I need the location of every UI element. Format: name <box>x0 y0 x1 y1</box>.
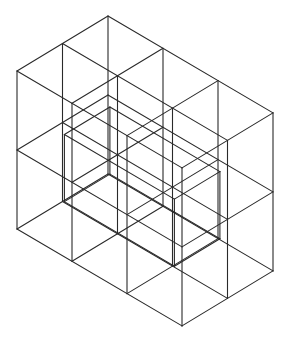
isometric-cube-diagram: Isometric wireframe of 3x2x2 cube grid w… <box>0 0 287 339</box>
inner-block-edge <box>110 107 220 172</box>
grid-line-right <box>63 44 228 141</box>
grid-line-right <box>63 202 228 299</box>
grid-line-right <box>63 123 228 220</box>
grid-line-right <box>17 229 182 326</box>
inner-block-edge <box>174 239 220 267</box>
grid-line-right <box>17 71 182 168</box>
inner-block-edge <box>174 172 220 200</box>
grid-line-right <box>17 150 182 247</box>
inner-block-edge <box>64 107 110 135</box>
wireframe-svg <box>0 0 287 339</box>
inner-block-edge <box>64 135 174 200</box>
grid-line-right <box>108 95 273 192</box>
grid-line-right <box>108 16 273 113</box>
inner-block-edge <box>64 174 110 202</box>
